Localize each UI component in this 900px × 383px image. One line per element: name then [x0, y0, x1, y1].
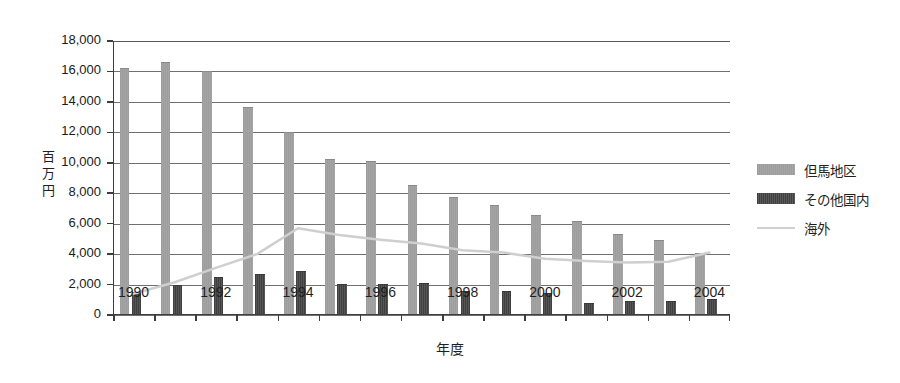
y-tick-label: 4,000: [68, 245, 101, 260]
x-tick-label: 1998: [447, 284, 478, 300]
x-tick-mark: [360, 315, 362, 321]
y-axis-title-char: 円: [39, 182, 57, 199]
x-tick-mark: [729, 315, 731, 321]
x-tick-label: 1992: [200, 284, 231, 300]
x-tick-mark: [483, 315, 485, 321]
chart-legend: 但馬地区 その他国内 海外: [757, 155, 869, 242]
x-tick-mark: [236, 315, 238, 321]
x-axis-line: [113, 314, 730, 316]
plot-frame: [113, 41, 730, 315]
y-axis-title: 百万円: [39, 148, 57, 199]
y-axis-title-text: 百万円: [39, 148, 57, 199]
y-tick-label: 10,000: [61, 154, 101, 169]
legend-swatch-bar-icon: [757, 164, 795, 175]
x-tick-label: 2004: [694, 284, 725, 300]
legend-label-tajima: 但馬地区: [804, 160, 856, 180]
y-tick-label: 8,000: [68, 184, 101, 199]
y-tick-label: 18,000: [61, 32, 101, 47]
x-tick-mark: [401, 315, 403, 321]
legend-item-tajima: 但馬地区: [757, 155, 869, 184]
x-tick-label: 2000: [529, 284, 560, 300]
gridline: [113, 315, 730, 316]
y-axis-title-char: 万: [39, 165, 57, 182]
x-tick-mark: [195, 315, 197, 321]
y-tick-label: 16,000: [61, 62, 101, 77]
x-tick-label: 1994: [283, 284, 314, 300]
x-tick-mark: [154, 315, 156, 321]
x-tick-mark: [607, 315, 609, 321]
y-tick-label: 12,000: [61, 123, 101, 138]
x-tick-mark: [648, 315, 650, 321]
plot-area: [113, 41, 730, 315]
legend-swatch-bar-icon: [757, 193, 795, 204]
x-tick-mark: [565, 315, 567, 321]
x-tick-label: 2002: [612, 284, 643, 300]
chart-figure: 百万円 02,0004,0006,0008,00010,00012,00014,…: [0, 0, 900, 383]
y-tick-label: 14,000: [61, 93, 101, 108]
x-tick-mark: [319, 315, 321, 321]
legend-swatch-line-icon: [757, 222, 795, 233]
x-tick-mark: [524, 315, 526, 321]
y-tick-label: 2,000: [68, 276, 101, 291]
x-tick-mark: [113, 315, 115, 321]
x-tick-mark: [278, 315, 280, 321]
y-tick-label: 0: [94, 306, 101, 321]
legend-label-overseas: 海外: [804, 218, 830, 238]
x-axis-title: 年度: [0, 338, 900, 358]
y-axis-title-char: 百: [39, 148, 57, 165]
y-tick-label: 6,000: [68, 215, 101, 230]
legend-label-other-domestic: その他国内: [804, 189, 869, 209]
x-tick-label: 1990: [118, 284, 149, 300]
x-tick-mark: [442, 315, 444, 321]
legend-item-overseas: 海外: [757, 213, 869, 242]
x-tick-label: 1996: [365, 284, 396, 300]
legend-item-other-domestic: その他国内: [757, 184, 869, 213]
x-tick-mark: [689, 315, 691, 321]
